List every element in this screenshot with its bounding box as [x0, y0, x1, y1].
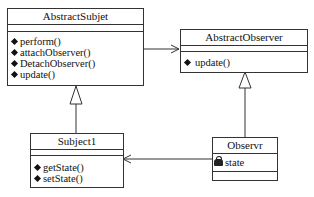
class-name: Subject1 — [31, 134, 123, 150]
public-method-icon — [11, 49, 18, 56]
class-observr: Observr state — [212, 137, 278, 181]
operations-compartment: perform() attachObserver() DetachObserve… — [8, 32, 143, 80]
attributes-compartment: state — [213, 154, 277, 172]
public-method-icon — [11, 60, 18, 67]
operation: attachObserver() — [10, 47, 143, 58]
association-observr-to-subject1 — [123, 155, 212, 163]
operation: setState() — [33, 173, 123, 184]
class-name: AbstractObserver — [181, 30, 307, 46]
operation: update() — [10, 69, 143, 80]
generalization-observr — [239, 72, 251, 137]
public-method-icon — [11, 38, 18, 45]
public-method-icon — [184, 59, 191, 66]
class-name: AbstractSubjet — [8, 9, 143, 25]
operations-compartment: update() — [181, 52, 307, 68]
operation: update() — [183, 57, 307, 68]
operation: perform() — [10, 36, 143, 47]
class-abstract-subjet: AbstractSubjet perform() attachObserver(… — [7, 8, 144, 86]
class-abstract-observer: AbstractObserver update() — [180, 29, 308, 73]
operation: DetachObserver() — [10, 58, 143, 69]
class-name: Observr — [213, 138, 277, 154]
public-method-icon — [34, 164, 41, 171]
generalization-subject1 — [70, 86, 82, 133]
attribute: state — [214, 157, 277, 168]
association-subject-to-observer — [143, 45, 179, 53]
operations-compartment: getState() setState() — [31, 156, 123, 184]
public-method-icon — [11, 71, 18, 78]
private-attribute-icon — [214, 159, 223, 166]
attributes-compartment — [8, 25, 143, 32]
class-subject1: Subject1 getState() setState() — [30, 133, 124, 188]
public-method-icon — [34, 175, 41, 182]
operation: getState() — [33, 162, 123, 173]
operations-compartment — [213, 172, 277, 174]
